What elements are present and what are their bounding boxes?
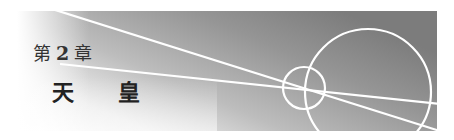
chapter-suffix: 章 [74, 43, 93, 64]
chapter-number-label: 第2章 [33, 39, 93, 65]
chapter-number: 2 [56, 42, 70, 64]
decorative-geometric-background [0, 0, 454, 140]
chapter-prefix: 第 [33, 43, 52, 64]
chapter-title-char-1: 天 [52, 74, 118, 106]
chapter-title: 天皇 [52, 74, 140, 106]
chapter-title-char-2: 皇 [118, 79, 140, 105]
chapter-header-banner: 第2章 天皇 [0, 0, 454, 140]
